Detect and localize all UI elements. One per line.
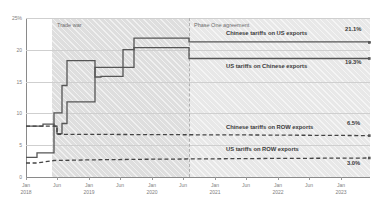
y-tick-5: 5 (2, 142, 22, 148)
x-tickmark-5 (183, 177, 184, 180)
series-label-chinese-on-row: Chinese tariffs on ROW exports (226, 124, 313, 130)
value-label-us-on-chinese: 19.3% (345, 59, 361, 65)
x-tick-label-1-top: Jun (40, 182, 74, 189)
x-tickmark-7 (246, 177, 247, 180)
x-tick-label-0-bottom: 2018 (9, 189, 43, 196)
series-line-us-on-chinese (26, 48, 370, 158)
series-lines (26, 18, 370, 177)
y-tick-25: 25% (2, 15, 22, 21)
x-tickmark-9 (309, 177, 310, 180)
x-tickmark-3 (120, 177, 121, 180)
x-tick-label-3-top: Jun (103, 182, 137, 189)
value-label-chinese-on-us: 21.1% (345, 26, 361, 32)
x-tick-label-8-bottom: 2022 (261, 189, 295, 196)
tariff-line-chart: 25% 20 15 10 5 0 (0, 0, 378, 206)
x-tick-label-5-top: Jun (166, 182, 200, 189)
endpoint-chinese-on-us (368, 41, 371, 44)
x-tickmark-0 (26, 177, 27, 180)
x-tick-label-4-top: Jan (135, 182, 169, 189)
x-tick-label-2-top: Jan (72, 182, 106, 189)
y-tick-0: 0 (2, 174, 22, 180)
series-line-chinese-on-row (26, 126, 370, 136)
x-tick-label-10-top: Jan (324, 182, 358, 189)
y-tick-20: 20 (2, 47, 22, 53)
endpoint-us-on-row (368, 157, 371, 160)
trade-war-band-label: Trade war (57, 22, 82, 28)
x-tick-label-7-top: Jun (229, 182, 263, 189)
x-axis-line (26, 177, 370, 178)
plot-area: Trade war Phase One agreement Chinese ta… (26, 18, 370, 177)
y-tick-10: 10 (2, 110, 22, 116)
x-tick-label-6-bottom: 2021 (198, 189, 232, 196)
x-tick-label-10-bottom: 2023 (324, 189, 358, 196)
phase-one-band-label: Phase One agreement (194, 22, 249, 28)
x-tick-label-9-top: Jun (292, 182, 326, 189)
x-tickmark-2 (89, 177, 90, 180)
x-tick-label-0-top: Jan (9, 182, 43, 189)
x-tick-label-4-bottom: 2020 (135, 189, 169, 196)
value-label-us-on-row: 3.0% (347, 160, 360, 166)
series-label-chinese-on-us: Chinese tariffs on US exports (226, 30, 307, 36)
value-label-chinese-on-row: 6.5% (347, 120, 360, 126)
series-label-us-on-chinese: US tariffs on Chinese exports (226, 63, 307, 69)
x-tickmark-1 (57, 177, 58, 180)
series-label-us-on-row: US tariffs on ROW exports (226, 146, 299, 152)
series-line-chinese-on-us (26, 38, 370, 134)
series-line-us-on-row (26, 158, 370, 163)
x-tickmark-4 (152, 177, 153, 180)
x-tickmark-6 (215, 177, 216, 180)
x-tickmark-8 (278, 177, 279, 180)
x-tick-label-2-bottom: 2019 (72, 189, 106, 196)
x-tick-label-8-top: Jan (261, 182, 295, 189)
endpoint-us-on-chinese (368, 57, 371, 60)
x-tickmark-10 (341, 177, 342, 180)
endpoint-chinese-on-row (368, 134, 371, 137)
y-tick-15: 15 (2, 79, 22, 85)
x-tick-label-6-top: Jan (198, 182, 232, 189)
